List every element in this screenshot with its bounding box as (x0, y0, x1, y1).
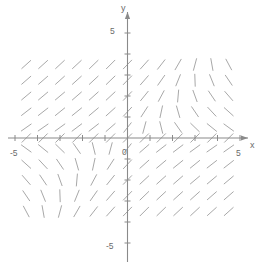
slope-mark (208, 107, 216, 116)
slope-mark (107, 191, 115, 200)
slope-mark (89, 76, 98, 84)
slope-mark (190, 145, 200, 152)
slope-mark (190, 160, 199, 168)
slope-mark (191, 207, 200, 215)
slope-mark (157, 145, 166, 152)
slope-mark (193, 59, 196, 71)
slope-mark (23, 206, 29, 217)
slope-mark (89, 92, 98, 100)
slope-mark (224, 124, 234, 131)
slope-mark (157, 192, 166, 200)
slope-mark (76, 174, 77, 186)
slope-mark (39, 92, 48, 100)
slope-mark (106, 92, 115, 100)
slope-mark (211, 59, 213, 71)
slope-mark (191, 192, 200, 200)
slope-mark (39, 60, 48, 68)
slope-mark (175, 59, 181, 69)
slope-mark (22, 60, 31, 68)
slope-mark (178, 90, 179, 102)
slope-mark (106, 76, 115, 84)
slope-mark (224, 145, 234, 152)
slope-mark (225, 75, 232, 85)
slope-mark (106, 124, 115, 132)
slope-mark (190, 176, 199, 184)
slope-mark (140, 207, 148, 215)
slope-mark (39, 76, 48, 84)
slope-mark (56, 60, 65, 68)
slope-mark (224, 161, 233, 168)
origin-label: 0 (122, 147, 127, 157)
slope-mark (140, 76, 148, 85)
slope-mark (209, 91, 216, 101)
slope-mark (75, 158, 78, 170)
slope-mark (74, 206, 80, 216)
x-axis-arrow (241, 135, 248, 140)
slope-mark (207, 207, 216, 215)
slope-mark (93, 158, 96, 170)
slope-mark (193, 90, 197, 101)
slope-mark (174, 207, 183, 215)
slope-mark (21, 124, 31, 131)
slope-mark (72, 108, 81, 116)
slope-mark (89, 124, 98, 131)
slope-mark (72, 92, 81, 100)
slope-mark (107, 207, 115, 216)
slope-mark (224, 192, 233, 200)
slope-mark (176, 75, 180, 86)
slope-mark (75, 190, 79, 201)
slope-mark (207, 145, 217, 152)
slope-mark (207, 161, 216, 168)
slope-mark (92, 143, 95, 155)
slope-mark (89, 60, 98, 68)
slope-mark (158, 60, 165, 69)
slope-mark (160, 122, 163, 134)
slope-mark (106, 60, 114, 68)
y-max-tick-label: 5 (110, 26, 115, 36)
slope-mark (22, 108, 31, 115)
slope-mark (224, 207, 233, 215)
slope-mark (23, 191, 30, 201)
slope-mark (41, 190, 45, 201)
slope-mark (55, 108, 64, 116)
slope-mark (224, 176, 233, 184)
slope-mark (72, 124, 82, 131)
slope-mark (226, 59, 232, 70)
x-axis-label: x (250, 140, 255, 150)
slope-mark (42, 206, 44, 218)
slope-mark (72, 60, 81, 68)
slope-mark (225, 91, 233, 100)
slope-mark (160, 106, 163, 118)
slope-mark (143, 122, 146, 134)
slope-mark (22, 160, 31, 168)
x-min-tick-label: -5 (10, 148, 18, 158)
slope-mark (157, 176, 166, 184)
slope-mark (106, 108, 115, 116)
slope-mark (173, 160, 182, 168)
slope-mark (38, 108, 47, 115)
slope-mark (38, 145, 47, 153)
slope-mark (140, 145, 149, 153)
slope-mark (56, 144, 65, 152)
slope-mark (176, 106, 179, 118)
slope-mark (107, 159, 114, 169)
slope-mark (141, 107, 148, 117)
slope-mark (58, 174, 62, 185)
slope-mark (39, 160, 47, 169)
axis-labels: y x 0 -5 5 5 -5 (10, 3, 255, 251)
slope-mark (109, 143, 112, 155)
slope-mark (174, 176, 183, 184)
slope-field-plot: y x 0 -5 5 5 -5 (0, 0, 263, 263)
slope-mark (90, 191, 97, 201)
slope-mark (55, 92, 64, 100)
slope-mark (207, 192, 216, 200)
slope-mark (38, 124, 48, 131)
slope-mark (158, 91, 164, 102)
slope-mark (192, 107, 199, 117)
slope-mark (55, 124, 65, 131)
y-axis-arrow (125, 12, 130, 19)
slope-mark (56, 76, 65, 84)
slope-mark (141, 91, 149, 100)
slope-mark (72, 76, 81, 84)
slope-mark (207, 176, 216, 184)
